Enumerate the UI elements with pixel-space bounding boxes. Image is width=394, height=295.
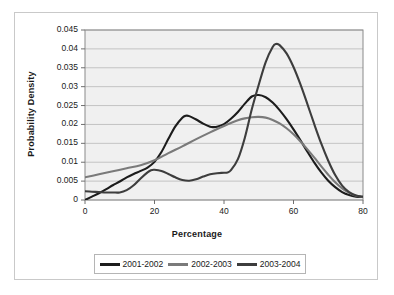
chart-legend: 2001-20022002-20032003-2004: [94, 254, 306, 274]
y-tick-label: 0.02: [34, 118, 78, 128]
legend-label: 2002-2003: [191, 259, 232, 269]
legend-item: 2002-2003: [168, 259, 232, 269]
x-tick-label: 80: [343, 206, 383, 216]
y-tick-label: 0.025: [34, 100, 78, 110]
legend-label: 2001-2002: [123, 259, 164, 269]
legend-swatch-icon: [100, 263, 120, 266]
x-axis-title: Percentage: [15, 229, 379, 239]
legend-label: 2003-2004: [260, 259, 301, 269]
y-tick-label: 0.045: [34, 24, 78, 34]
y-tick-label: 0.04: [34, 43, 78, 53]
x-tick-label: 40: [204, 206, 244, 216]
x-tick-label: 60: [274, 206, 314, 216]
y-tick-label: 0: [34, 194, 78, 204]
y-tick-label: 0.01: [34, 156, 78, 166]
y-tick-label: 0.015: [34, 137, 78, 147]
legend-swatch-icon: [237, 263, 257, 266]
plot-background: [85, 30, 363, 200]
legend-item: 2003-2004: [237, 259, 301, 269]
y-tick-label: 0.005: [34, 175, 78, 185]
y-tick-label: 0.03: [34, 81, 78, 91]
chart-region: Probability Density Percentage 00.0050.0…: [15, 13, 379, 281]
x-tick-label: 20: [135, 206, 175, 216]
y-tick-label: 0.035: [34, 62, 78, 72]
chart-outer-frame: Probability Density Percentage 00.0050.0…: [14, 12, 378, 280]
x-tick-label: 0: [65, 206, 105, 216]
legend-item: 2001-2002: [100, 259, 164, 269]
legend-swatch-icon: [168, 263, 188, 266]
